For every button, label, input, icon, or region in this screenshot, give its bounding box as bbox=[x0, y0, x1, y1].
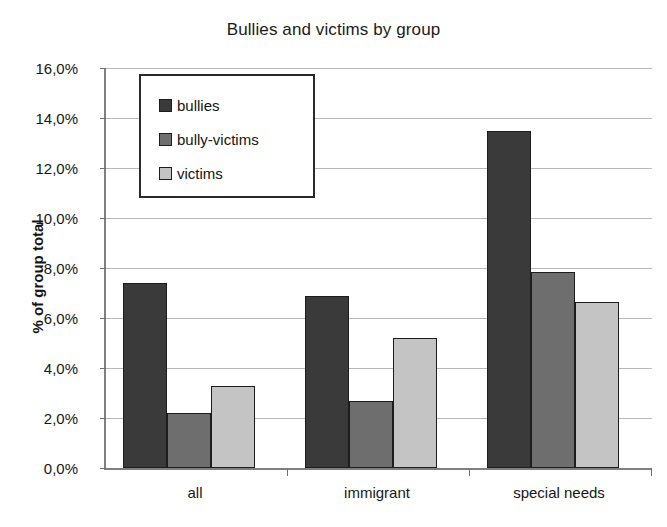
bar-chart: Bullies and victims by group % of group … bbox=[0, 0, 667, 527]
bar-group bbox=[470, 68, 652, 468]
y-tick-mark bbox=[100, 468, 106, 469]
bar bbox=[575, 302, 619, 468]
x-tick-mark bbox=[651, 468, 652, 476]
y-tick-label: 2,0% bbox=[0, 411, 78, 426]
bar-group bbox=[288, 68, 470, 468]
y-tick-label: 14,0% bbox=[0, 111, 78, 126]
bar bbox=[487, 131, 531, 469]
legend-item[interactable]: victims bbox=[159, 156, 313, 190]
y-tick-label: 4,0% bbox=[0, 361, 78, 376]
bar bbox=[167, 413, 211, 468]
legend-item[interactable]: bully-victims bbox=[159, 122, 313, 156]
x-tick-label: special needs bbox=[513, 484, 605, 501]
y-tick-label: 8,0% bbox=[0, 261, 78, 276]
bar bbox=[393, 338, 437, 468]
x-tick-label: immigrant bbox=[344, 484, 410, 501]
y-tick-label: 0,0% bbox=[0, 461, 78, 476]
chart-legend: bulliesbully-victimsvictims bbox=[139, 74, 315, 198]
y-tick-label: 10,0% bbox=[0, 211, 78, 226]
x-tick-label: all bbox=[187, 484, 202, 501]
x-tick-mark bbox=[287, 468, 288, 476]
legend-label: bullies bbox=[177, 97, 220, 114]
bar bbox=[211, 386, 255, 469]
legend-item[interactable]: bullies bbox=[159, 88, 313, 122]
y-axis-title: % of group total bbox=[29, 177, 46, 377]
y-tick-label: 12,0% bbox=[0, 161, 78, 176]
legend-swatch-icon bbox=[159, 133, 172, 146]
bar bbox=[349, 401, 393, 469]
bar bbox=[123, 283, 167, 468]
y-tick-label: 6,0% bbox=[0, 311, 78, 326]
y-tick-label: 16,0% bbox=[0, 61, 78, 76]
x-tick-mark bbox=[469, 468, 470, 476]
legend-label: victims bbox=[177, 165, 223, 182]
chart-title: Bullies and victims by group bbox=[0, 20, 667, 40]
legend-label: bully-victims bbox=[177, 131, 259, 148]
legend-swatch-icon bbox=[159, 99, 172, 112]
bar bbox=[531, 272, 575, 468]
bar bbox=[305, 296, 349, 469]
legend-swatch-icon bbox=[159, 167, 172, 180]
